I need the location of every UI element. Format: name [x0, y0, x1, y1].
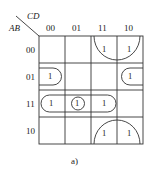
karnaugh-map: CD AB 00 01 11 10 00 01 11 10 1 1 1 1 1 …: [0, 0, 156, 171]
col-label-10: 10: [124, 23, 134, 33]
row-label-00: 00: [26, 45, 36, 55]
cell-10-10: 1: [127, 128, 131, 138]
cell-11-11: 1: [102, 98, 106, 108]
row-label-10: 10: [26, 126, 36, 136]
cell-11-01: 1: [75, 98, 79, 108]
cell-01-10: 1: [128, 71, 132, 81]
col-label-00: 00: [46, 23, 56, 33]
col-label-01: 01: [72, 23, 81, 33]
row-label-01: 01: [26, 72, 35, 82]
cell-10-11: 1: [102, 128, 106, 138]
row-01-wrap-right: [122, 68, 144, 85]
cell-01-00: 1: [48, 71, 52, 81]
cell-00-10: 1: [127, 44, 131, 54]
row-var-label: AB: [8, 23, 20, 33]
caption: a): [71, 156, 78, 166]
col-var-label: CD: [27, 11, 40, 21]
col-label-11: 11: [98, 23, 107, 33]
row-label-11: 11: [26, 99, 35, 109]
cell-11-00: 1: [49, 98, 53, 108]
cell-00-11: 1: [102, 44, 106, 54]
